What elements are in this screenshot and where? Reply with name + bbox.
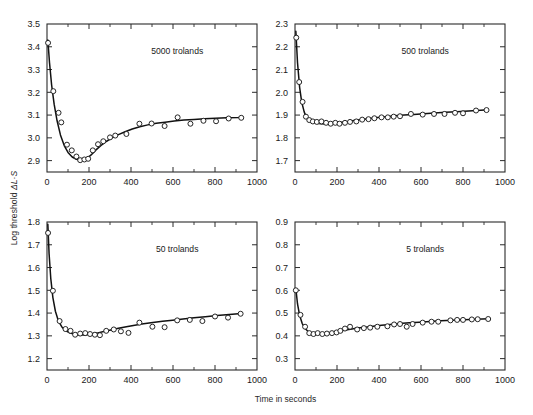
data-point-marker [355,327,360,332]
y-tick-label: 2.9 [27,156,40,166]
x-tick-label: 0 [292,177,297,187]
data-point-marker [108,135,113,140]
data-point-marker [83,331,88,336]
data-point-marker [73,332,78,337]
y-tick-label: 1.7 [27,240,40,250]
panel-bottom-left: 020040060080010001.21.31.41.51.61.71.850… [27,217,267,385]
data-point-marker [188,121,193,126]
data-point-marker [315,331,320,336]
data-point-marker [124,131,129,136]
y-tick-label: 3.2 [27,88,40,98]
data-point-marker [469,317,474,322]
data-point-marker [46,230,51,235]
x-tick-label: 1000 [247,177,267,187]
data-point-marker [337,121,342,126]
data-point-marker [88,332,93,337]
y-tick-label: 1.6 [27,263,40,273]
data-point-marker [238,311,243,316]
dark-adaptation-figure: 020040060080010002.93.03.13.23.33.43.550… [0,0,533,415]
y-tick-label: 0.3 [275,354,288,364]
data-point-marker [348,324,353,329]
y-tick-label: 1.7 [275,156,288,166]
data-point-marker [239,115,244,120]
data-point-marker [375,324,380,329]
y-tick-label: 0.5 [275,308,288,318]
data-point-marker [56,110,61,115]
data-point-marker [101,139,106,144]
x-tick-label: 1000 [495,375,515,385]
x-tick-label: 600 [413,375,428,385]
y-tick-label: 1.4 [27,308,40,318]
data-point-marker [175,115,180,120]
panel-top-right: 020040060080010001.71.81.92.02.12.22.350… [275,19,515,187]
data-point-marker [64,142,69,147]
x-tick-label: 1000 [495,177,515,187]
data-point-marker [420,320,425,325]
data-point-marker [214,119,219,124]
data-point-marker [328,121,333,126]
x-tick-label: 800 [207,177,222,187]
y-tick-label: 0.6 [275,286,288,296]
data-point-marker [404,324,409,329]
x-tick-label: 400 [123,375,138,385]
data-point-marker [150,324,155,329]
x-tick-label: 800 [207,375,222,385]
data-point-marker [303,324,308,329]
x-axis-label-container: Time in seconds [0,394,533,404]
x-tick-label: 800 [455,177,470,187]
panel-frame [295,24,505,172]
data-point-marker [97,333,102,338]
panel-title: 5000 trolands [151,46,203,56]
data-point-marker [448,318,453,323]
data-point-marker [297,80,302,85]
data-point-marker [379,115,384,120]
data-point-marker [398,322,403,327]
x-tick-label: 600 [165,177,180,187]
data-point-marker [398,114,403,119]
x-tick-label: 400 [123,177,138,187]
y-tick-label: 2.3 [275,19,288,29]
y-tick-label: 1.9 [275,110,288,120]
y-tick-label: 2.0 [275,88,288,98]
data-point-marker [201,118,206,123]
data-point-marker [484,108,489,113]
data-point-marker [118,329,123,334]
data-point-marker [113,133,118,138]
data-point-marker [410,322,415,327]
x-tick-label: 800 [455,375,470,385]
data-point-marker [162,124,167,129]
panel-frame [47,222,257,370]
y-tick-label: 2.1 [275,65,288,75]
data-point-marker [461,317,466,322]
data-point-marker [408,111,413,116]
data-point-marker [453,110,458,115]
x-tick-label: 600 [165,375,180,385]
y-tick-label: 3.3 [27,65,40,75]
panel-title: 50 trolands [156,244,199,254]
y-tick-label: 3.1 [27,110,40,120]
data-point-marker [200,319,205,324]
data-point-marker [175,318,180,323]
data-point-marker [92,332,97,337]
data-point-marker [324,120,329,125]
panel-title: 500 trolands [402,46,449,56]
data-point-marker [50,288,55,293]
data-point-marker [46,40,51,45]
data-point-marker [486,317,491,322]
panel-title: 5 trolands [406,244,444,254]
data-point-marker [68,328,73,333]
y-tick-label: 1.2 [27,354,40,364]
y-tick-label: 0.4 [275,331,288,341]
data-point-marker [187,317,192,322]
data-point-marker [86,156,91,161]
x-tick-label: 200 [81,375,96,385]
data-point-marker [385,324,390,329]
data-point-marker [342,326,347,331]
data-point-marker [475,317,480,322]
data-point-marker [226,116,231,121]
data-point-marker [368,325,373,330]
y-tick-label: 1.5 [27,286,40,296]
data-point-marker [361,326,366,331]
y-tick-label: 3.5 [27,19,40,29]
x-tick-label: 200 [329,177,344,187]
